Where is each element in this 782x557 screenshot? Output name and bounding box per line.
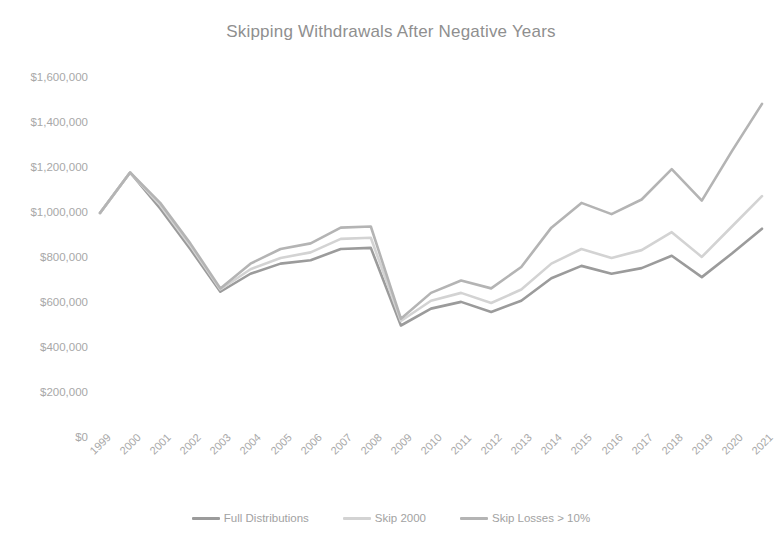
legend-color-swatch <box>460 517 488 520</box>
legend-label: Full Distributions <box>224 512 309 524</box>
legend-label: Skip Losses > 10% <box>492 512 590 524</box>
legend-color-swatch <box>343 517 371 520</box>
plot-area <box>0 0 782 557</box>
legend-item[interactable]: Full Distributions <box>192 512 309 524</box>
chart-legend: Full DistributionsSkip 2000Skip Losses >… <box>0 512 782 524</box>
legend-item[interactable]: Skip Losses > 10% <box>460 512 590 524</box>
series-line <box>100 173 762 322</box>
legend-item[interactable]: Skip 2000 <box>343 512 426 524</box>
legend-label: Skip 2000 <box>375 512 426 524</box>
legend-color-swatch <box>192 517 220 520</box>
line-chart: Skipping Withdrawals After Negative Year… <box>0 0 782 557</box>
series-line <box>100 173 762 326</box>
series-line <box>100 104 762 319</box>
